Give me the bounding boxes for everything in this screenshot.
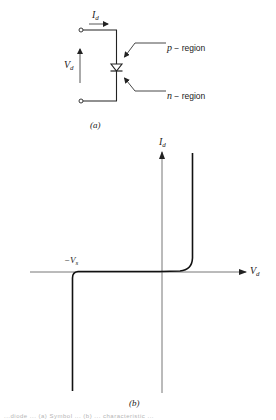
footer-caption: ...diode ... (a) Symbol ... (b) ... char… [4,413,154,419]
breakdown-voltage-label: −Vs [64,256,78,267]
forward-curve [160,153,193,272]
diode-triangle [111,64,122,71]
n-region-text: − region [172,91,205,101]
n-region-label: n − region [167,86,205,102]
top-wire [83,30,117,64]
diagram-canvas [0,0,276,420]
y-axis-label-sub: d [162,141,166,149]
bottom-wire [83,71,117,101]
iv-graph [30,152,246,393]
n-region-pointer [125,78,167,91]
p-region-label: p − region [167,38,205,54]
p-region-pointer [125,43,167,57]
caption-a: (a) [90,121,101,130]
caption-b: (b) [129,399,140,408]
diode-circuit [79,24,166,103]
top-terminal [79,28,83,32]
y-axis-label: Id [159,137,166,149]
breakdown-label-main: −V [64,255,76,265]
x-axis-label-sub: d [256,270,260,278]
voltage-label-sub: d [70,64,74,72]
current-label: Id [92,10,99,22]
current-label-sub: d [95,14,99,22]
breakdown-label-sub: s [76,259,79,267]
bottom-terminal [79,99,83,103]
reverse-flat-curve [73,272,161,392]
p-region-text: − region [172,43,205,53]
x-axis-label: Vd [250,266,260,278]
voltage-label: Vd [64,60,74,72]
